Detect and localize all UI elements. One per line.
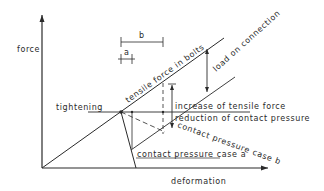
contact-pressure-a-label: contact pressure case a	[137, 150, 246, 159]
force-deformation-diagram: force deformation tensile force in bolts…	[0, 0, 324, 191]
dim-a-label: a	[124, 48, 130, 57]
contact-pressure-a-line	[121, 112, 136, 168]
x-axis-label: deformation	[171, 177, 226, 186]
reduction-label: reduction of contact pressure	[175, 114, 310, 123]
tensile-force-label: tensile force in bolts	[124, 42, 206, 104]
increase-label: increase of tensile force	[175, 102, 286, 111]
contact-pressure-b-label: contact pressure case b	[176, 120, 282, 166]
y-axis-label: force	[17, 45, 40, 54]
dim-b-label: b	[139, 31, 145, 40]
load-label: load on connection	[211, 9, 282, 74]
contact-pressure-b-line	[121, 112, 165, 132]
tightening-label: tightening	[56, 103, 103, 112]
